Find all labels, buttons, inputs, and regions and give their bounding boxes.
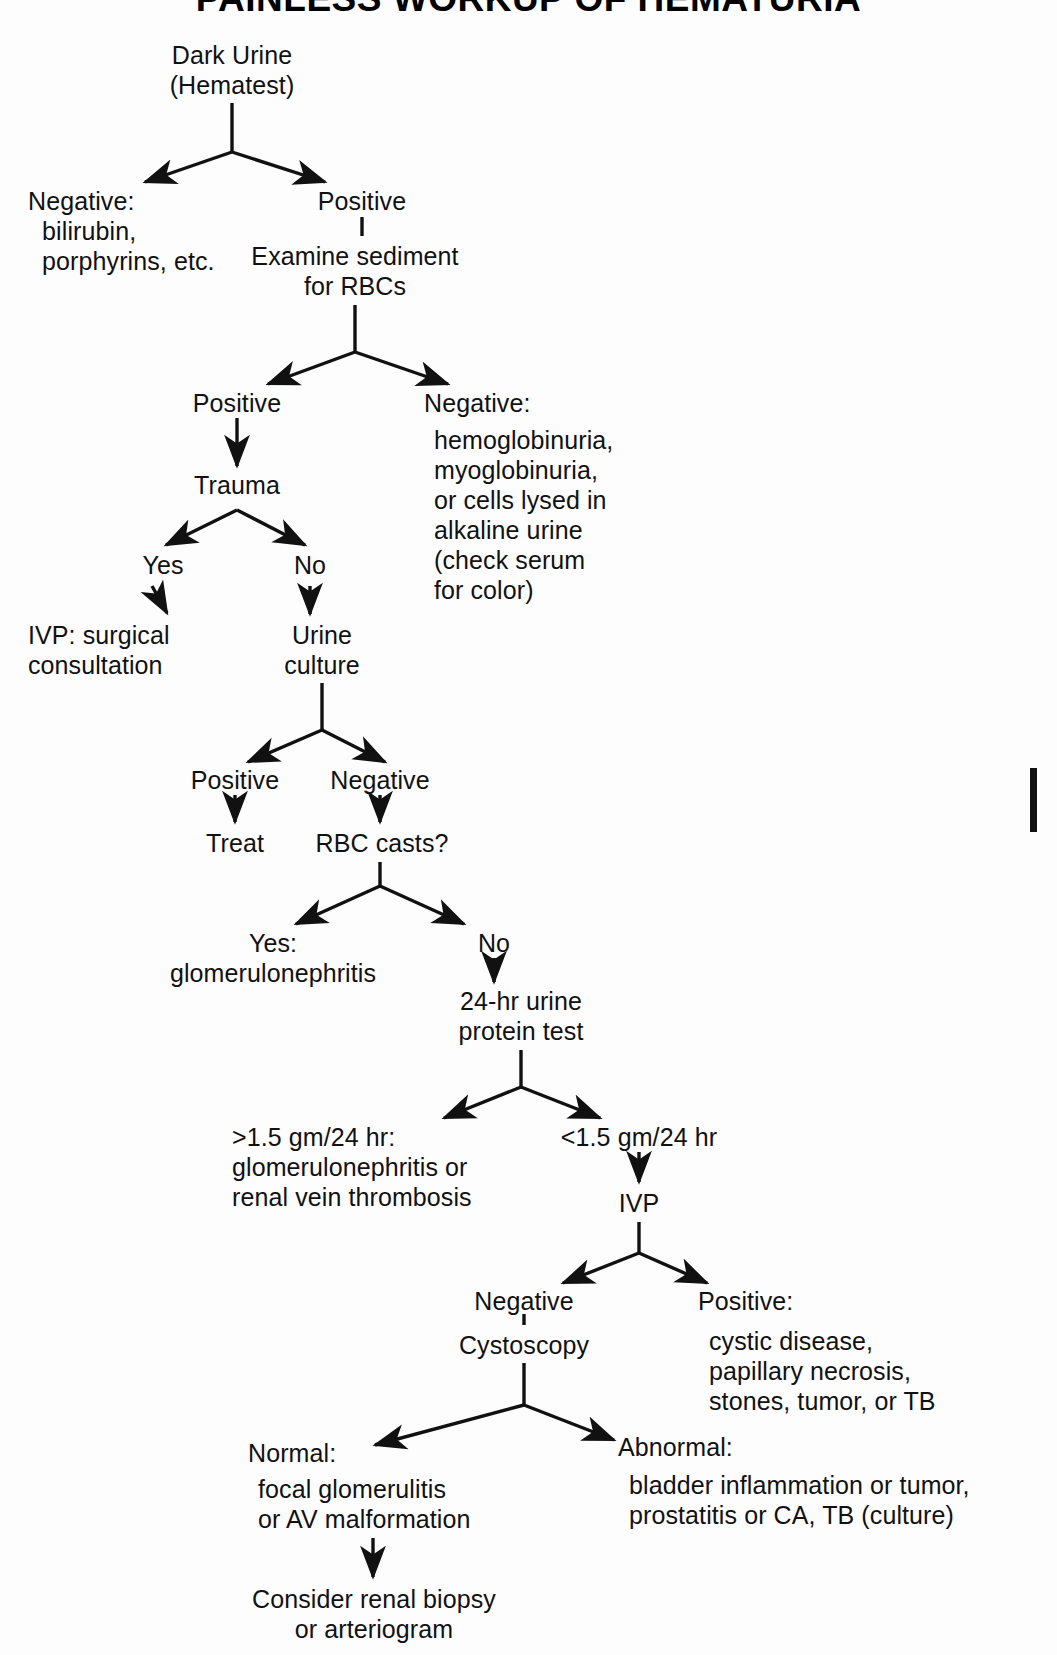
node-final-consider-biopsy: Consider renal biopsy or arteriogram (252, 1584, 496, 1644)
node-cysto-normal: Normal: (248, 1438, 336, 1468)
node-rbc-casts: RBC casts? (316, 828, 449, 858)
node-trauma-no: No (294, 550, 326, 580)
node-cysto-abnormal: Abnormal: (618, 1432, 733, 1462)
title-clip: PAINLESS WORKUP OF HEMATURIA (0, 0, 1057, 16)
node-protein-high: >1.5 gm/24 hr: glomerulonephritis or ren… (232, 1122, 472, 1212)
node-trauma: Trauma (194, 470, 280, 500)
node-sediment-negative: Negative: (424, 388, 531, 418)
node-ivp-surgical-consultation: IVP: surgical consultation (28, 620, 170, 680)
node-sediment-positive: Positive (193, 388, 281, 418)
flowchart-page: PAINLESS WORKUP OF HEMATURIA (0, 0, 1057, 1655)
node-ivp-positive-detail: cystic disease, papillary necrosis, ston… (709, 1326, 936, 1416)
node-ivp-negative: Negative (474, 1286, 573, 1316)
node-urine-culture: Urine culture (284, 620, 360, 680)
node-root: Dark Urine (Hematest) (170, 40, 295, 100)
node-cysto-abnormal-detail: bladder inflammation or tumor, prostatit… (629, 1470, 970, 1530)
node-treat: Treat (206, 828, 264, 858)
node-protein-low: <1.5 gm/24 hr (561, 1122, 717, 1152)
node-sediment-negative-detail: hemoglobinuria, myoglobinuria, or cells … (434, 425, 613, 605)
node-protein-test: 24-hr urine protein test (459, 986, 584, 1046)
node-casts-no: No (478, 928, 510, 958)
node-ivp: IVP (619, 1188, 660, 1218)
node-positive-hematest: Positive (318, 186, 406, 216)
node-culture-negative: Negative (330, 765, 429, 795)
node-examine-sediment: Examine sediment for RBCs (251, 241, 458, 301)
page-title: PAINLESS WORKUP OF HEMATURIA (196, 0, 862, 16)
node-casts-yes: Yes: glomerulonephritis (170, 928, 376, 988)
scan-edge-mark (1030, 768, 1037, 832)
node-ivp-positive: Positive: (698, 1286, 793, 1316)
node-negative-hematest: Negative: bilirubin, porphyrins, etc. (28, 186, 215, 276)
node-cysto-normal-detail: focal glomerulitis or AV malformation (258, 1474, 471, 1534)
node-trauma-yes: Yes (142, 550, 183, 580)
node-cystoscopy: Cystoscopy (459, 1330, 589, 1360)
node-culture-positive: Positive (191, 765, 279, 795)
